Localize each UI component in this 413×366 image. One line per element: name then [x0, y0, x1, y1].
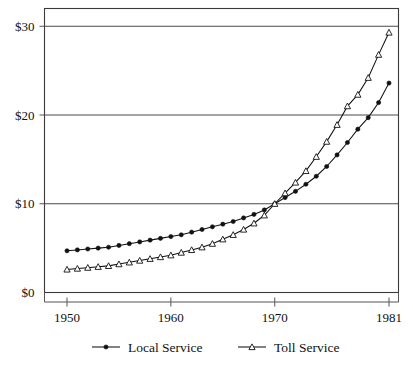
- legend-label-1: Toll Service: [274, 340, 339, 355]
- data-point-1955-local-service: [117, 243, 121, 247]
- data-point-1957-local-service: [138, 240, 142, 244]
- data-point-1978-local-service: [356, 127, 360, 131]
- data-point-1964-local-service: [210, 225, 214, 229]
- data-point-1966-local-service: [231, 219, 235, 223]
- data-point-1968-local-service: [252, 212, 256, 216]
- data-point-1967-local-service: [241, 216, 245, 220]
- data-point-1962-local-service: [190, 230, 194, 234]
- data-point-1961-local-service: [179, 233, 183, 237]
- data-point-1981-local-service: [387, 81, 391, 85]
- data-point-1980-local-service: [377, 100, 381, 104]
- y-tick-label-30: $30: [15, 19, 35, 34]
- x-tick-label-1950: 1950: [54, 310, 80, 325]
- data-point-1954-local-service: [106, 245, 110, 249]
- data-point-1974-local-service: [314, 174, 318, 178]
- legend-label-0: Local Service: [128, 340, 203, 355]
- x-tick-label-1981: 1981: [376, 310, 402, 325]
- y-tick-label-10: $10: [15, 196, 35, 211]
- legend-marker-0: [104, 345, 108, 349]
- x-tick-label-1970: 1970: [262, 310, 288, 325]
- data-point-1956-local-service: [127, 242, 131, 246]
- data-point-1976-local-service: [335, 153, 339, 157]
- data-point-1977-local-service: [345, 140, 349, 144]
- data-point-1959-local-service: [158, 236, 162, 240]
- chart-container: $0$10$20$30 1950196019701981 Local Servi…: [0, 0, 413, 366]
- data-point-1965-local-service: [221, 222, 225, 226]
- data-point-1960-local-service: [169, 234, 173, 238]
- x-tick-label-1960: 1960: [158, 310, 184, 325]
- data-point-1951-local-service: [75, 248, 79, 252]
- data-point-1952-local-service: [86, 247, 90, 251]
- line-chart: $0$10$20$30 1950196019701981 Local Servi…: [0, 0, 413, 366]
- y-tick-label-0: $0: [22, 285, 35, 300]
- data-point-1975-local-service: [325, 164, 329, 168]
- data-point-1979-local-service: [366, 116, 370, 120]
- data-point-1950-local-service: [65, 249, 69, 253]
- data-point-1963-local-service: [200, 227, 204, 231]
- y-tick-label-20: $20: [15, 108, 35, 123]
- data-point-1973-local-service: [304, 182, 308, 186]
- data-point-1972-local-service: [293, 189, 297, 193]
- data-point-1958-local-service: [148, 238, 152, 242]
- data-point-1953-local-service: [96, 246, 100, 250]
